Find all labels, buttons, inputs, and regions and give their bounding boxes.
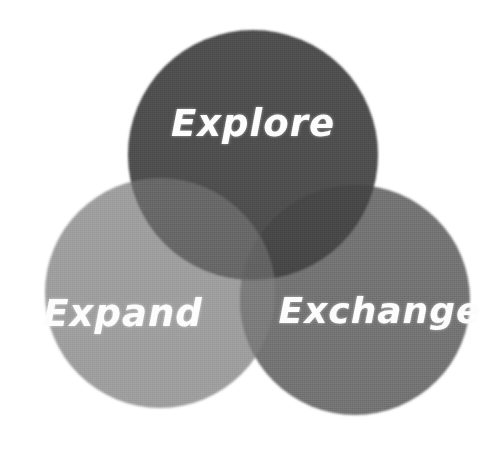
venn-diagram: Explore Expand Exchange (0, 0, 500, 457)
venn-diagram-canvas: Explore Expand Exchange (0, 0, 500, 457)
label-explore: Explore (171, 102, 335, 145)
label-exchange: Exchange (279, 290, 482, 331)
label-expand: Expand (43, 292, 202, 335)
